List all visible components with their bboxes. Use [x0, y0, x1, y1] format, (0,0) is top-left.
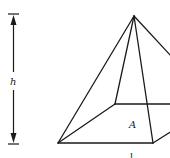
edge-apex-front-left — [58, 16, 134, 143]
height-dimension: h — [8, 14, 19, 144]
height-label: h — [10, 76, 16, 87]
arrow-down-icon — [11, 133, 17, 143]
pyramid-diagram: h A l — [0, 0, 170, 158]
base-edge-label: l — [130, 150, 133, 158]
edge-apex-back-left — [115, 16, 134, 104]
base-left-edge — [58, 104, 115, 143]
edge-apex-front-right — [134, 16, 153, 143]
base-area-label: A — [128, 119, 136, 130]
pyramid-base — [58, 104, 170, 143]
arrow-up-icon — [11, 15, 17, 25]
pyramid-lateral-edges — [58, 16, 170, 143]
base-right-edge — [153, 131, 170, 143]
